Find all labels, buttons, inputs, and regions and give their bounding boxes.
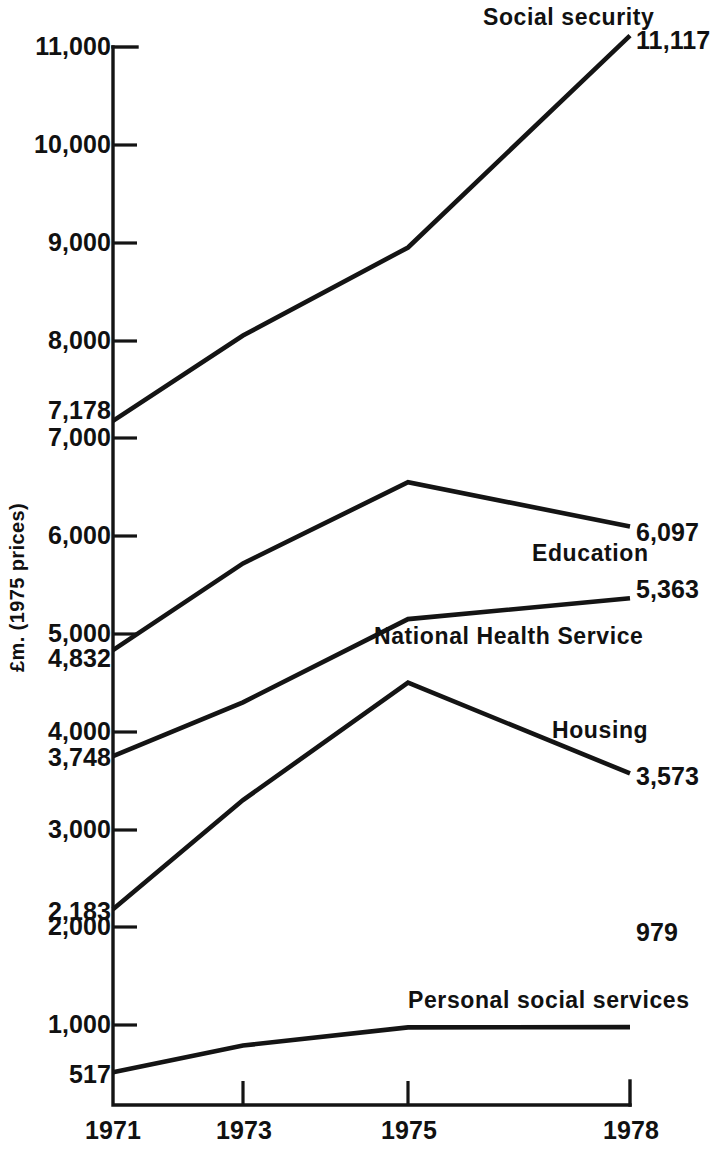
start-value-label-education: 4,832 (48, 646, 111, 671)
series-label-housing: Housing (552, 719, 648, 742)
series-line-pss (113, 1027, 630, 1072)
y-tick-label-1000: 1,000 (48, 1012, 111, 1037)
y-tick-label-6000: 6,000 (48, 523, 111, 548)
series-line-social-security (113, 36, 630, 421)
y-tick-label-7000: 7,000 (48, 425, 111, 450)
axis-lines (113, 47, 630, 1105)
y-axis-title: £m. (1975 prices) (6, 503, 29, 672)
y-tick-label-10000: 10,000 (34, 132, 111, 157)
end-value-label-nhs: 5,363 (636, 577, 699, 602)
y-tick-label-5000: 5,000 (48, 621, 111, 646)
y-tick-label-8000: 8,000 (48, 328, 111, 353)
start-value-label-nhs: 3,748 (48, 745, 111, 770)
y-tick-label-4000: 4,000 (48, 719, 111, 744)
end-value-label-pss: 979 (636, 920, 678, 945)
end-value-label-housing: 3,573 (636, 764, 699, 789)
series-label-education: Education (532, 542, 649, 565)
y-tick-label-9000: 9,000 (48, 230, 111, 255)
x-tick-label-1973: 1973 (209, 1118, 279, 1143)
x-tick-label-1971: 1971 (78, 1118, 148, 1143)
start-value-label-social-security: 7,178 (48, 398, 111, 423)
start-value-label-housing: 2,183 (48, 899, 111, 924)
series-label-pss: Personal social services (408, 989, 690, 1012)
y-tick-label-3000: 3,000 (48, 817, 111, 842)
series-label-nhs: National Health Service (374, 625, 643, 648)
x-tick-label-1978: 1978 (596, 1118, 666, 1143)
series-label-social-security: Social security (483, 6, 654, 29)
start-value-label-pss: 517 (69, 1062, 111, 1087)
x-tick-label-1975: 1975 (374, 1118, 444, 1143)
x-axis-ticks (243, 1081, 408, 1105)
end-value-label-social-security: 11,117 (636, 28, 710, 53)
y-tick-label-11000: 11,000 (35, 34, 111, 59)
